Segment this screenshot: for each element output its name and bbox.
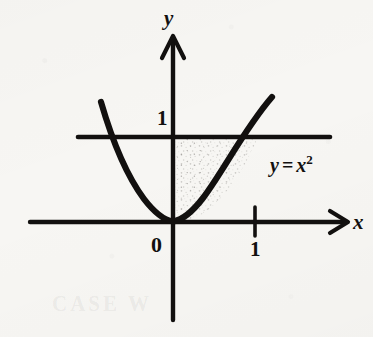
parabola-plot: [0, 0, 373, 337]
origin-label: 0: [151, 234, 162, 256]
y-axis-label: y: [164, 8, 173, 29]
x-axis-label: x: [353, 212, 364, 233]
equation-operator: =: [282, 154, 293, 176]
equation-lhs: y: [270, 154, 279, 176]
equation-exponent: 2: [306, 152, 313, 167]
equation-base: x: [296, 154, 306, 176]
y-axis-tick-label-one: 1: [157, 108, 168, 129]
x-axis-tick-label-one: 1: [250, 239, 261, 260]
figure-root: CASE W: [0, 0, 373, 337]
curve-equation-label: y=x2: [270, 153, 313, 175]
